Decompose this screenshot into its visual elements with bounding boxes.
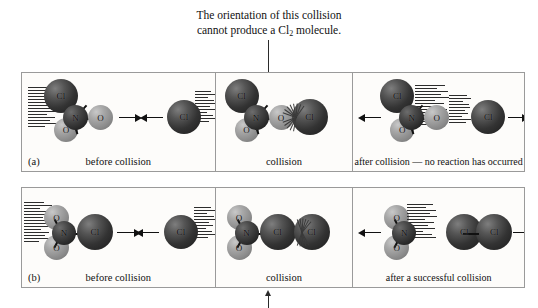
atom-label-oxygen-right: O bbox=[97, 113, 104, 123]
motion-arrow-atom-left bbox=[146, 117, 163, 118]
atom-label-oxygen-upper: O bbox=[53, 213, 60, 223]
atom-label-chlorine-free: Cl bbox=[177, 227, 186, 237]
panel-b-caption-collision: collision bbox=[216, 272, 353, 283]
atom-chlorine-product-right: Cl bbox=[476, 214, 512, 250]
figure-stage: The orientation of this collision cannot… bbox=[0, 0, 538, 308]
atom-label-oxygen-lower: O bbox=[393, 243, 400, 253]
top-annotation-line-2-pre: cannot produce a Cl bbox=[197, 24, 289, 36]
atom-label-chlorine: Cl bbox=[91, 227, 100, 237]
atom-label-nitrogen: N bbox=[61, 228, 68, 238]
panel-b: O O N Cl Cl (b) bbox=[21, 187, 525, 288]
atom-label-chlorine-free: Cl bbox=[305, 112, 314, 122]
atom-chlorine-bonded: Cl bbox=[260, 214, 296, 250]
panel-b-scene-before: O O N Cl Cl bbox=[22, 188, 215, 264]
panel-a-frame-collision: Cl O N O bbox=[215, 73, 353, 171]
atom-label-chlorine-free: Cl bbox=[484, 112, 493, 122]
atom-nitrogen: N bbox=[392, 221, 416, 245]
panel-a-caption-before: before collision bbox=[22, 156, 215, 167]
motion-arrow-molecule-left bbox=[364, 117, 381, 118]
panel-a-caption-collision: collision bbox=[216, 156, 353, 167]
atom-label-oxygen-right: O bbox=[433, 113, 440, 123]
atom-chlorine-free: Cl bbox=[164, 215, 198, 249]
atom-label-chlorine: Cl bbox=[57, 91, 66, 101]
motion-arrow-molecule-right bbox=[119, 117, 136, 118]
atom-label-oxygen-lower: O bbox=[399, 125, 406, 135]
motion-arrow-molecule-left bbox=[364, 232, 381, 233]
motion-arrow-atom-left bbox=[142, 232, 159, 233]
atom-nitrogen: N bbox=[52, 221, 76, 245]
atom-label-oxygen-lower: O bbox=[243, 125, 250, 135]
atom-label-nitrogen: N bbox=[243, 228, 250, 238]
motion-arrow-molecule-right bbox=[117, 232, 135, 233]
panel-a-scene-before: Cl O N O Cl bbox=[22, 73, 215, 149]
atom-label-chlorine: Cl bbox=[273, 227, 282, 237]
panel-b-frame-collision: O O N Cl Cl bbox=[215, 188, 353, 287]
atom-chlorine-free: Cl bbox=[167, 100, 201, 134]
panel-b-frame-after: O O N Cl Cl aft bbox=[352, 188, 524, 287]
panel-b-scene-collision: O O N Cl Cl bbox=[216, 188, 353, 264]
atom-label-chlorine: Cl bbox=[237, 91, 246, 101]
atom-chlorine-bonded: Cl bbox=[77, 214, 113, 250]
atom-oxygen-right: O bbox=[88, 105, 113, 130]
panel-b-scene-after: O O N Cl Cl bbox=[353, 188, 524, 264]
panel-b-frame-before: O O N Cl Cl (b) bbox=[22, 188, 215, 287]
atom-chlorine-free: Cl bbox=[471, 100, 505, 134]
top-annotation-line-2-post: molecule. bbox=[293, 24, 341, 36]
atom-label-oxygen-lower: O bbox=[236, 243, 243, 253]
panel-a-scene-after: Cl O N O Cl bbox=[353, 73, 524, 149]
bottom-pointer-line bbox=[268, 295, 269, 308]
atom-nitrogen: N bbox=[235, 221, 259, 245]
atom-label-chlorine-free: Cl bbox=[180, 112, 189, 122]
motion-arrow-atom-right bbox=[508, 117, 523, 118]
top-annotation-line-2: cannot produce a Cl2 molecule. bbox=[0, 23, 538, 41]
atom-label-oxygen-lower: O bbox=[63, 125, 70, 135]
atom-label-chlorine-product-right: Cl bbox=[490, 227, 499, 237]
panel-a-frame-before: Cl O N O Cl (a) bbox=[22, 73, 215, 171]
panel-a-scene-collision: Cl O N O bbox=[216, 73, 353, 149]
atom-label-nitrogen: N bbox=[401, 228, 408, 238]
panel-a-caption-after: after collision — no reaction has occurr… bbox=[353, 156, 524, 167]
panel-b-caption-before: before collision bbox=[22, 272, 215, 283]
atom-label-chlorine-product-left: Cl bbox=[460, 227, 469, 237]
atom-label-nitrogen: N bbox=[72, 113, 79, 123]
atom-label-chlorine-free: Cl bbox=[307, 227, 316, 237]
motion-arrow-product-right bbox=[513, 232, 524, 233]
panel-a-frame-after: Cl O N O Cl bbox=[352, 73, 524, 171]
top-annotation-line-1: The orientation of this collision bbox=[0, 8, 538, 23]
atom-label-oxygen-lower: O bbox=[53, 243, 60, 253]
speed-lines-free-chlorine bbox=[449, 95, 471, 125]
atom-label-nitrogen: N bbox=[408, 113, 415, 123]
atom-label-chlorine: Cl bbox=[393, 91, 402, 101]
atom-label-oxygen-upper: O bbox=[236, 213, 243, 223]
atom-label-nitrogen: N bbox=[253, 113, 260, 123]
atom-label-oxygen-upper: O bbox=[393, 213, 400, 223]
panel-a: Cl O N O Cl (a) bbox=[21, 72, 525, 172]
panel-b-caption-after: after a successful collision bbox=[353, 272, 524, 283]
top-annotation: The orientation of this collision cannot… bbox=[0, 8, 538, 41]
